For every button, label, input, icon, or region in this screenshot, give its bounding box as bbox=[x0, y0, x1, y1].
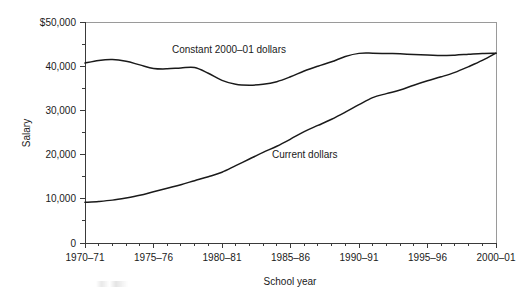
salary-line-chart: $50,00040,00030,00020,00010,0000 1970–71… bbox=[0, 0, 525, 294]
scan-artifact bbox=[96, 281, 128, 287]
x-tick-label: 1980–81 bbox=[203, 252, 242, 263]
x-tick-label: 2000–01 bbox=[477, 252, 516, 263]
x-tick-label: 1985–86 bbox=[271, 252, 310, 263]
y-tick-label: 10,000 bbox=[45, 193, 76, 204]
series-inline-labels: Constant 2000–01 dollarsCurrent dollars bbox=[172, 44, 338, 160]
series-line-constant-dollars bbox=[85, 53, 496, 85]
y-tick-label: $50,000 bbox=[40, 17, 77, 28]
x-axis-tick-labels: 1970–711975–761980–811985–861990–911995–… bbox=[66, 252, 516, 263]
chart-container: $50,00040,00030,00020,00010,0000 1970–71… bbox=[0, 0, 525, 294]
x-tick-label: 1970–71 bbox=[66, 252, 105, 263]
y-axis-title: Salary bbox=[21, 119, 32, 147]
x-tick-label: 1990–91 bbox=[340, 252, 379, 263]
series-label-constant-dollars: Constant 2000–01 dollars bbox=[172, 44, 286, 55]
y-axis-tick-labels: $50,00040,00030,00020,00010,0000 bbox=[40, 17, 77, 249]
y-tick-label: 40,000 bbox=[45, 61, 76, 72]
x-tick-label: 1995–96 bbox=[408, 252, 447, 263]
series-label-current-dollars: Current dollars bbox=[272, 149, 338, 160]
y-tick-label: 20,000 bbox=[45, 149, 76, 160]
x-tick-label: 1975–76 bbox=[134, 252, 173, 263]
x-axis-title: School year bbox=[264, 276, 317, 287]
series-line-current-dollars bbox=[85, 53, 496, 202]
y-tick-label: 30,000 bbox=[45, 105, 76, 116]
y-tick-label: 0 bbox=[70, 238, 76, 249]
series-lines bbox=[85, 53, 496, 202]
